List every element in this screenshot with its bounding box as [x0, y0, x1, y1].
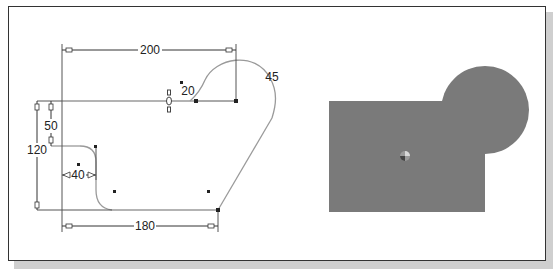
dimension-lines: [37, 50, 236, 226]
fillet-center-point-3[interactable]: [207, 190, 210, 193]
origin-icon: [167, 90, 172, 112]
shaded-origin-icon: [400, 151, 410, 161]
shaded-region[interactable]: [329, 66, 529, 212]
end-point[interactable]: [216, 208, 220, 212]
dimension-arrows: [35, 48, 232, 228]
step-corner-point[interactable]: [94, 145, 97, 148]
fillet-center-point[interactable]: [77, 163, 80, 166]
dim-120-label[interactable]: 120: [27, 143, 47, 157]
fillet-center-point-2[interactable]: [113, 190, 116, 193]
dim-45-label[interactable]: 45: [265, 70, 279, 84]
dim-20-label[interactable]: 20: [181, 84, 195, 98]
arc-center-point[interactable]: [234, 99, 238, 103]
dim-50-label[interactable]: 50: [44, 119, 58, 133]
construction-lines: [37, 44, 236, 232]
tangent-point[interactable]: [194, 99, 198, 103]
dim-40-label[interactable]: 40: [71, 168, 85, 182]
dim-200-label[interactable]: 200: [140, 43, 160, 57]
dim-180-label[interactable]: 180: [135, 219, 155, 233]
sketch-profile[interactable]: [51, 60, 276, 210]
sketch-canvas: 200 180 20 45 120 50 40: [0, 0, 554, 271]
